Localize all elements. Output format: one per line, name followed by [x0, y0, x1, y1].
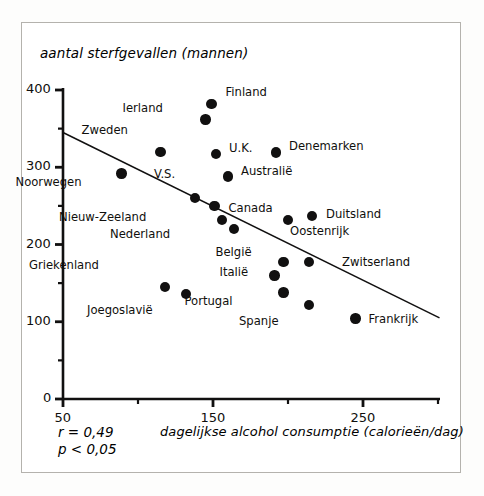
data-point [190, 193, 200, 203]
data-point [304, 257, 314, 267]
point-label: V.S. [154, 167, 175, 181]
data-point [271, 147, 281, 157]
point-label: Finland [226, 85, 267, 99]
axis-tick-label: 50 [55, 410, 72, 425]
point-label: België [216, 245, 252, 259]
x-axis-title: dagelijkse alcohol consumptie (calorieën… [160, 424, 464, 439]
point-label: Frankrijk [369, 312, 419, 326]
data-point [307, 211, 317, 221]
data-point [217, 215, 227, 225]
point-label: Italië [220, 265, 249, 279]
data-point [278, 257, 288, 267]
point-label: Portugal [185, 294, 233, 308]
data-layer: 010020030040050150250FinlandIerlandZwede… [0, 0, 484, 496]
data-point [229, 224, 239, 234]
point-label: Duitsland [326, 207, 381, 221]
axis-tick-label: 300 [26, 158, 51, 173]
data-point [116, 168, 126, 178]
data-point [223, 171, 233, 181]
data-point [160, 282, 170, 292]
point-label: Nederland [110, 227, 170, 241]
point-label: Canada [229, 201, 273, 215]
data-point [304, 300, 314, 310]
point-label: Zwitserland [342, 255, 410, 269]
axis-tick-label: 100 [26, 313, 51, 328]
scatter-plot-figure: aantal sterfgevallen (mannen) 0100200300… [0, 0, 484, 496]
point-label: Griekenland [29, 258, 99, 272]
p-value: p < 0,05 [58, 441, 117, 458]
statistics-annotation: r = 0,49 p < 0,05 [58, 424, 117, 458]
data-point [209, 201, 219, 211]
axis-tick-label: 200 [26, 236, 51, 251]
point-label: Denemarken [289, 139, 364, 153]
point-label: Ierland [123, 101, 163, 115]
point-label: Oostenrijk [290, 224, 349, 238]
correlation-value: r = 0,49 [58, 424, 117, 441]
axis-tick-label: 0 [43, 390, 51, 405]
point-label: Noorwegen [16, 175, 82, 189]
point-label: Australië [241, 164, 292, 178]
point-label: Nieuw-Zeeland [59, 210, 146, 224]
data-point [200, 114, 210, 124]
data-point [206, 99, 216, 109]
axis-tick-label: 150 [201, 410, 226, 425]
axis-tick-label: 250 [351, 410, 376, 425]
data-point [350, 313, 360, 323]
axis-tick-label: 400 [26, 81, 51, 96]
data-point [278, 287, 288, 297]
point-label: Zweden [82, 123, 128, 137]
point-label: Spanje [239, 314, 279, 328]
point-label: Joegoslavië [87, 303, 153, 317]
data-point [269, 270, 279, 280]
data-point [211, 149, 221, 159]
data-point [155, 147, 165, 157]
point-label: U.K. [229, 141, 252, 155]
